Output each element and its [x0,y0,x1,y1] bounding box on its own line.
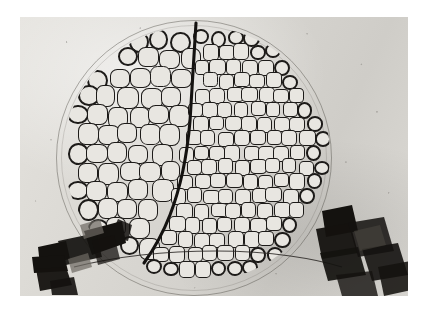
bubble-cell [209,116,225,131]
screenshot-root [0,0,426,313]
bubble-cell [161,230,177,245]
bubble-cell [265,158,280,173]
bubble-cell [138,47,159,67]
bubble-cell [233,43,249,59]
bubble-cell [282,217,297,232]
bubble-cell [150,66,171,87]
bubble-cell [140,124,161,145]
bubble-cell [282,158,297,173]
bubble-cell [251,101,267,116]
bubble-cell [118,47,138,66]
bubble-cell [179,261,195,278]
bubble-cell [289,88,304,103]
bubble-cell [266,102,281,117]
bubble-cell [217,245,234,261]
bubble-cell [195,261,211,278]
bubble-cell [289,173,304,190]
bubble-cell [188,103,204,118]
bubble-cell [227,261,243,276]
bubble-cell [78,123,99,145]
left-clamp [22,207,142,295]
bubble-cell [178,231,194,247]
bubble-cell [274,173,289,187]
bubble-cell [117,123,138,143]
bubble-cell [78,163,99,183]
bubble-cell [203,190,220,205]
bubble-cell [163,262,179,277]
bubble-cell [130,68,152,88]
bubble-cell [235,245,250,261]
bubble-cell [159,124,180,146]
photograph [20,17,408,296]
bubble-cell [107,142,127,164]
bubble-cell [128,179,148,199]
bubble-cell [67,105,89,124]
bubble-cell [266,72,283,88]
bubble-cell [267,130,282,145]
bubble-cell [306,145,321,161]
bubble-cell [210,173,226,188]
bubble-cell [274,232,290,248]
bubble-cell [217,217,232,232]
bubble-cell [265,43,281,58]
bubble-cell [193,29,209,45]
bubble-cell [203,72,218,87]
bubble-cell [241,87,258,102]
bubble-cell [200,130,215,146]
bubble-cell [234,130,250,146]
bubble-cell [267,247,284,263]
bubble-cell [265,187,282,202]
bubble-cell [171,69,192,88]
bubble-cell [266,216,283,232]
bubble-cell [218,158,233,174]
bubble-cell [258,231,274,246]
bubble-cell [283,102,298,117]
bubble-cell [242,260,258,275]
bubble-cell [146,259,162,274]
bubble-cell [281,130,297,147]
bubble-cell [241,202,257,218]
bubble-cell [148,105,169,124]
bubble-cell [211,261,226,276]
bubble-cell [250,45,266,61]
bubble-cell [87,104,108,125]
bubble-cell [187,187,202,203]
bubble-cell [307,173,323,189]
bubble-cell [110,69,131,88]
bubble-cell [202,218,217,233]
right-clamp [300,197,408,296]
bubble-cell [299,130,316,146]
bubble-cell [225,116,242,132]
bubble-cell [86,144,108,164]
bubble-cell [315,131,331,147]
bubble-cell [187,160,203,175]
bubble-cell [202,245,218,261]
bubble-cell [226,173,243,189]
bubble-cell [234,72,251,87]
bubble-cell [250,130,266,145]
